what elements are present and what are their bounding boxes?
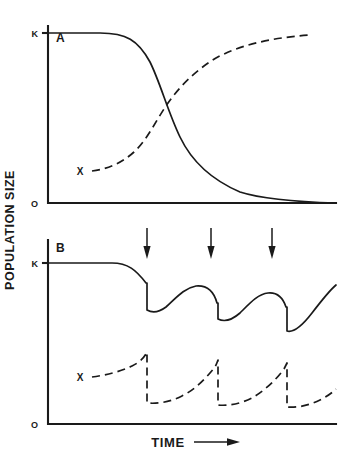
panel-a-axes: [48, 26, 336, 203]
panel-b-parasite-curve: [92, 352, 336, 407]
population-dynamics-figure: POPULATION SIZE K O A X: [0, 0, 342, 458]
panel-b-ytick-k: K: [32, 259, 39, 269]
x-axis-title-group: TIME: [151, 435, 240, 450]
panel-a-host-curve: [48, 33, 336, 203]
treatment-arrow-1-head: [143, 246, 150, 259]
panel-b: K O B X: [31, 228, 336, 430]
y-axis-title: POPULATION SIZE: [3, 170, 17, 290]
panel-a-ytick-o: O: [31, 199, 38, 209]
figure-container: POPULATION SIZE K O A X: [0, 0, 342, 458]
treatment-arrow-2: [207, 228, 214, 259]
panel-b-axes: [48, 240, 336, 424]
panel-b-series-label-x: X: [77, 372, 84, 383]
panel-a: K O A X: [31, 26, 336, 209]
panel-b-label: B: [56, 241, 65, 255]
time-arrow-head: [227, 438, 240, 445]
treatment-arrow-3: [268, 228, 275, 259]
treatment-arrow-2-head: [207, 246, 214, 259]
time-direction-arrow-icon: [194, 438, 240, 445]
treatment-arrow-1: [143, 228, 150, 259]
panel-a-parasite-curve: [92, 35, 310, 171]
panel-b-ytick-o: O: [31, 420, 38, 430]
treatment-arrow-3-head: [268, 246, 275, 259]
panel-a-series-label-x: X: [77, 166, 84, 177]
panel-a-ytick-k: K: [32, 29, 39, 39]
panel-b-host-curve: [48, 263, 336, 331]
x-axis-title: TIME: [151, 435, 184, 450]
